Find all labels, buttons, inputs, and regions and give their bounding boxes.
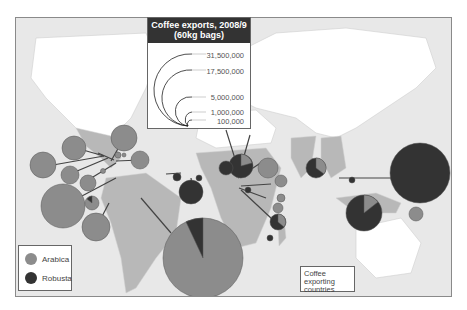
arabica-swatch-icon [25, 253, 37, 265]
bubble-guatemala [30, 152, 56, 178]
bubble-vietnam [390, 143, 450, 203]
country-legend: Coffee exporting countries [300, 266, 355, 292]
bubble-india [306, 158, 326, 178]
size-label-1000000: 1,000,000 [211, 108, 244, 117]
size-label-100000: 100,000 [217, 117, 244, 126]
arabica-label: Arabica [42, 255, 69, 264]
bubble-mexico [62, 136, 86, 160]
bubble-honduras [61, 166, 79, 184]
robusta-swatch-icon [25, 272, 37, 284]
bubble-sierra-leone [173, 173, 181, 181]
bubble-brazil [163, 218, 243, 297]
bubble-nicaragua [80, 175, 96, 191]
bubble-dominican [131, 151, 149, 169]
bubble-cote-divoire [179, 180, 203, 204]
size-label-31500000: 31,500,000 [206, 51, 244, 60]
type-legend: Arabica Robusta [18, 245, 72, 291]
legend-subtitle: (60kg bags) [150, 30, 248, 40]
bubble-peru [82, 213, 110, 241]
size-legend-title: Coffee exports, 2008/9 (60kg bags) [148, 18, 250, 43]
size-label-17500000: 17,500,000 [206, 67, 244, 76]
legend-robusta: Robusta [25, 272, 72, 284]
robusta-label: Robusta [42, 274, 72, 283]
bubble-png [409, 207, 423, 221]
bubble-colombia [41, 184, 85, 228]
bubble-indonesia [346, 195, 382, 231]
legend-title: Coffee exports, 2008/9 [150, 20, 248, 30]
bubble-colombia-north [111, 125, 137, 151]
bubble-uganda [270, 214, 286, 230]
bubble-cameroon [219, 161, 233, 175]
bubble-kenya-region [258, 158, 278, 178]
legend-arabica: Arabica [25, 253, 69, 265]
country-legend-label: Coffee exporting countries [304, 269, 335, 294]
size-label-5000000: 5,000,000 [211, 93, 244, 102]
size-legend: Coffee exports, 2008/9 (60kg bags) 31,50… [147, 17, 251, 129]
